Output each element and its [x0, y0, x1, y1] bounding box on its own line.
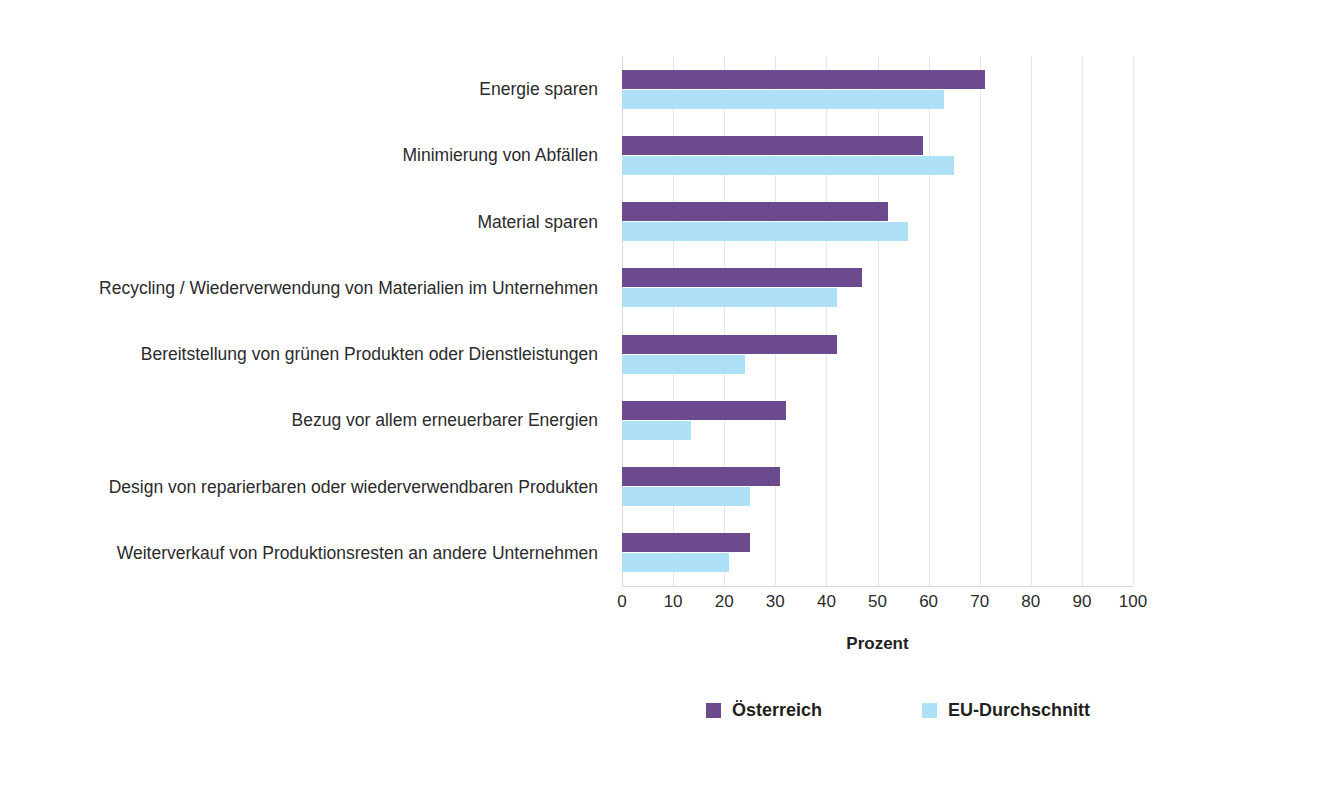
x-tick-label: 100 — [1119, 592, 1147, 612]
x-axis-title: Prozent — [622, 634, 1133, 654]
x-axis-tick-labels: 0102030405060708090100 — [622, 592, 1133, 620]
x-tick-label: 0 — [617, 592, 626, 612]
x-axis-line — [622, 586, 1133, 587]
bar-group — [622, 202, 1133, 241]
bar-group — [622, 467, 1133, 506]
legend-swatch-icon — [706, 703, 721, 718]
x-tick-label: 90 — [1072, 592, 1091, 612]
bar-chart: Energie sparenMinimierung von AbfällenMa… — [0, 0, 1319, 789]
legend-swatch-icon — [922, 703, 937, 718]
x-tick-label: 60 — [919, 592, 938, 612]
bar-eu — [622, 421, 691, 440]
plot-area — [622, 56, 1133, 586]
bar-austria — [622, 335, 837, 354]
bar-group — [622, 335, 1133, 374]
legend-label: Österreich — [732, 700, 822, 721]
bar-austria — [622, 268, 862, 287]
category-label: Minimierung von Abfällen — [402, 145, 598, 165]
bar-austria — [622, 401, 786, 420]
x-tick-label: 10 — [664, 592, 683, 612]
category-label: Design von reparierbaren oder wiederverw… — [109, 477, 598, 497]
bar-eu — [622, 90, 944, 109]
category-label: Bereitstellung von grünen Produkten oder… — [141, 344, 598, 364]
bar-eu — [622, 156, 954, 175]
bar-group — [622, 401, 1133, 440]
category-label: Recycling / Wiederverwendung von Materia… — [99, 278, 598, 298]
bar-eu — [622, 553, 729, 572]
category-label: Bezug vor allem erneuerbarer Energien — [292, 410, 598, 430]
x-tick-label: 80 — [1021, 592, 1040, 612]
bar-group — [622, 70, 1133, 109]
x-tick-label: 40 — [817, 592, 836, 612]
legend-item[interactable]: EU-Durchschnitt — [922, 700, 1090, 721]
bar-eu — [622, 487, 750, 506]
x-tick-label: 30 — [766, 592, 785, 612]
category-label: Material sparen — [477, 212, 598, 232]
bar-group — [622, 268, 1133, 307]
legend-item[interactable]: Österreich — [706, 700, 822, 721]
x-tick-label: 20 — [715, 592, 734, 612]
bar-austria — [622, 467, 780, 486]
bar-eu — [622, 288, 837, 307]
x-tick-label: 50 — [868, 592, 887, 612]
category-label: Energie sparen — [479, 79, 598, 99]
bar-austria — [622, 70, 985, 89]
bar-eu — [622, 222, 908, 241]
bar-austria — [622, 533, 750, 552]
bar-eu — [622, 355, 745, 374]
bar-group — [622, 533, 1133, 572]
legend-label: EU-Durchschnitt — [948, 700, 1090, 721]
bar-austria — [622, 202, 888, 221]
chart-legend: ÖsterreichEU-Durchschnitt — [622, 700, 1182, 734]
x-tick-label: 70 — [970, 592, 989, 612]
bar-austria — [622, 136, 923, 155]
gridline-100 — [1133, 56, 1134, 586]
category-label: Weiterverkauf von Produktionsresten an a… — [117, 543, 598, 563]
bar-group — [622, 136, 1133, 175]
category-axis-labels: Energie sparenMinimierung von AbfällenMa… — [0, 56, 610, 586]
